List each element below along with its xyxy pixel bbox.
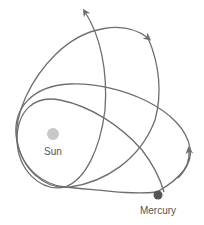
sun-label: Sun (44, 146, 62, 157)
orbit-1-arrow-segment (178, 150, 189, 178)
mercury-label: Mercury (140, 205, 176, 216)
orbit-2 (17, 28, 159, 188)
mercury-precession-diagram: Sun Mercury (0, 0, 204, 225)
mercury-icon (154, 191, 163, 200)
orbit-3 (17, 12, 164, 192)
sun-icon (47, 128, 59, 140)
